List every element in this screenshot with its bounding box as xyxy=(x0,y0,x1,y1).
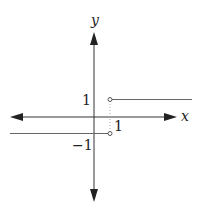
tick-label-y-neg-one: −1 xyxy=(72,137,93,153)
x-axis-label: x xyxy=(181,108,189,124)
x-axis-left-arrow-icon xyxy=(10,113,23,121)
open-circle-upper xyxy=(108,98,112,102)
x-axis-right-arrow-icon xyxy=(164,113,177,121)
y-axis-up-arrow-icon xyxy=(90,32,98,45)
y-axis-label: y xyxy=(90,12,100,28)
tick-label-x-one: 1 xyxy=(114,118,123,134)
tick-label-y-one: 1 xyxy=(82,92,91,108)
step-function-graph: y x 1 1 −1 xyxy=(0,0,201,211)
open-circle-lower xyxy=(108,132,112,136)
y-axis-down-arrow-icon xyxy=(90,189,98,202)
